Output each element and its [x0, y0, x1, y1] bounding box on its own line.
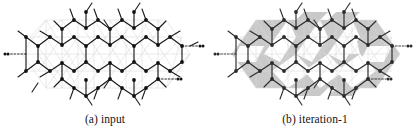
panel-iteration-1: (b) iteration-1 [210, 0, 420, 139]
panel-input-canvas [0, 0, 210, 114]
triangular-grid-underlay [22, 20, 190, 88]
caption-panel-b: (b) iteration-1 [210, 113, 420, 125]
figure-root: (a) input [0, 0, 420, 139]
caption-panel-a: (a) input [0, 113, 210, 125]
panel-iteration-1-canvas [210, 0, 420, 114]
panel-input: (a) input [0, 0, 210, 139]
